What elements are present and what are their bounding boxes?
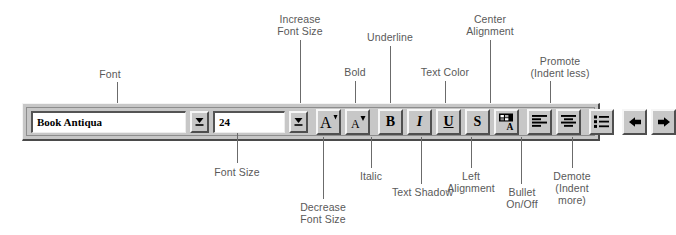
leader-line-center-alignment	[490, 40, 491, 108]
svg-text:A: A	[320, 114, 332, 131]
leader-line-bullet-on-off	[521, 137, 522, 184]
underline-icon: U	[443, 115, 453, 129]
text-shadow-button[interactable]: S	[465, 109, 490, 135]
leader-line-increase-font-size	[300, 40, 301, 108]
center-alignment-button[interactable]	[556, 109, 581, 135]
italic-icon: I	[417, 115, 422, 129]
bullet-on-off-button[interactable]	[589, 109, 614, 135]
svg-text:A: A	[351, 117, 360, 131]
leader-line-underline	[390, 46, 391, 108]
formatting-toolbar: Book Antiqua 24 A	[22, 103, 600, 141]
callout-underline: Underline	[340, 31, 440, 43]
align-center-icon	[560, 114, 577, 129]
leader-line-decrease-font-size	[323, 137, 324, 199]
svg-text:A: A	[507, 122, 514, 131]
text-color-button[interactable]: A	[494, 109, 519, 135]
decrease-font-size-icon: A	[348, 113, 368, 131]
callout-italic: Italic	[346, 170, 396, 182]
chevron-down-icon	[194, 116, 205, 128]
align-left-icon	[531, 114, 548, 129]
demote-button[interactable]	[651, 109, 676, 135]
callout-promote: Promote (Indent less)	[505, 55, 615, 79]
decrease-font-size-button[interactable]: A	[345, 109, 370, 135]
font-name-input[interactable]: Book Antiqua	[31, 111, 186, 133]
left-alignment-button[interactable]	[527, 109, 552, 135]
promote-button[interactable]	[622, 109, 647, 135]
callout-decrease-font-size: Decrease Font Size	[278, 201, 368, 225]
bold-button[interactable]: B	[378, 109, 403, 135]
underline-button[interactable]: U	[436, 109, 461, 135]
callout-text-color: Text Color	[400, 66, 490, 78]
callout-demote: Demote (Indent more)	[532, 170, 612, 206]
chevron-down-icon	[293, 116, 304, 128]
callout-font-size: Font Size	[197, 166, 277, 178]
text-color-icon: A	[497, 112, 516, 131]
increase-font-size-button[interactable]: A	[316, 109, 341, 135]
bulleted-list-icon	[593, 114, 610, 129]
callout-center-alignment: Center Alignment	[440, 13, 540, 37]
bold-icon: B	[386, 115, 395, 129]
callout-font: Font	[75, 68, 145, 80]
increase-font-size-icon: A	[319, 113, 339, 131]
italic-button[interactable]: I	[407, 109, 432, 135]
callout-bold: Bold	[325, 66, 385, 78]
text-shadow-icon: S	[474, 115, 482, 129]
leader-line-italic	[371, 137, 372, 168]
callout-increase-font-size: Increase Font Size	[255, 13, 345, 37]
arrow-left-icon	[627, 115, 643, 129]
leader-line-font-size	[237, 133, 238, 163]
arrow-right-icon	[656, 115, 672, 129]
leader-line-left-alignment	[471, 137, 472, 168]
leader-line-text-shadow	[421, 137, 422, 184]
font-name-dropdown-button[interactable]	[190, 111, 209, 133]
font-size-input[interactable]: 24	[213, 111, 285, 133]
leader-line-demote	[572, 137, 573, 168]
font-size-dropdown-button[interactable]	[289, 111, 308, 133]
